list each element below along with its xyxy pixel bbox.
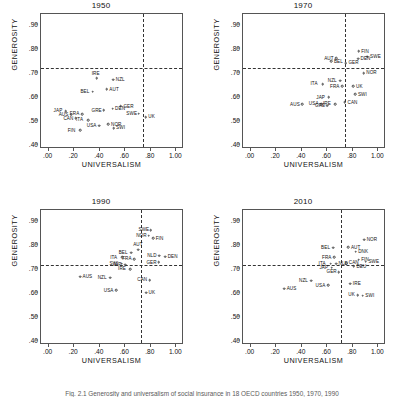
- x-tick-label: .80: [347, 152, 356, 159]
- plot-area: NZLIREAUTBELGERDENGRESWEUKJAPAUSFRACANIT…: [40, 13, 183, 148]
- data-point-label: ITA: [76, 117, 83, 122]
- data-point-label: AUT: [133, 242, 143, 247]
- x-tick-mark: [48, 148, 49, 151]
- data-point: [148, 279, 151, 282]
- data-point-label: IRE: [92, 71, 100, 76]
- data-point-label: FIN: [156, 236, 164, 241]
- x-tick-label: .40: [94, 152, 103, 159]
- data-point: [147, 234, 150, 237]
- x-axis-label: UNIVERSALISM: [242, 356, 385, 365]
- data-point: [353, 265, 356, 268]
- data-point: [137, 248, 140, 251]
- data-point-label: GER: [326, 269, 336, 274]
- data-point-label: UK: [148, 114, 155, 119]
- x-tick-mark: [150, 344, 151, 347]
- data-point: [109, 276, 112, 279]
- data-point: [362, 72, 365, 75]
- plot-area: SWEFINDENNORAUTBELGERNZLITAFRAUKSWIJAPAU…: [242, 13, 385, 148]
- data-point: [354, 93, 357, 96]
- y-tick-mark: [237, 292, 240, 293]
- x-tick-label: .00: [43, 348, 52, 355]
- data-point-label: SWE: [139, 227, 150, 232]
- data-point: [103, 109, 106, 112]
- panel-title: 1950: [0, 1, 202, 10]
- data-point-label: GER: [146, 260, 156, 265]
- data-point: [95, 77, 98, 80]
- data-point-label: ITA: [310, 81, 317, 86]
- data-point: [87, 119, 90, 122]
- y-tick-mark: [237, 268, 240, 269]
- panel-1950: 1950 GENEROSITY .40.50.60.70.80.90 NZLIR…: [0, 0, 202, 196]
- data-point: [327, 284, 330, 287]
- data-point-label: GRE: [92, 108, 102, 113]
- data-point-label: DEN: [115, 106, 125, 111]
- x-tick-label: .00: [43, 152, 52, 159]
- data-point: [157, 261, 160, 264]
- y-tick-mark: [35, 316, 38, 317]
- y-tick-mark: [35, 219, 38, 220]
- panel-title: 1990: [0, 197, 202, 206]
- x-tick-mark: [175, 344, 176, 347]
- data-point: [352, 85, 355, 88]
- y-tick-mark: [237, 72, 240, 73]
- y-tick-mark: [237, 96, 240, 97]
- data-point: [144, 116, 147, 119]
- data-point-label: DEN: [361, 56, 371, 61]
- data-point: [107, 123, 110, 126]
- x-tick-label: .40: [296, 152, 305, 159]
- y-axis-ticks: .40.50.60.70.80.90: [14, 13, 38, 148]
- data-point: [354, 250, 357, 253]
- data-point-label: AUS: [287, 286, 297, 291]
- x-tick-label: 1.00: [371, 348, 384, 355]
- y-axis-ticks: .40.50.60.70.80.90: [216, 209, 240, 344]
- data-point-label: IRE: [353, 281, 361, 286]
- y-tick-mark: [237, 243, 240, 244]
- data-point: [145, 291, 148, 294]
- data-point: [341, 85, 344, 88]
- data-point: [322, 83, 325, 86]
- data-point-label: SWE: [370, 54, 381, 59]
- panel-2010: 2010 GENEROSITY .40.50.60.70.80.90 NORAU…: [202, 196, 404, 392]
- panel-1990: 1990 GENEROSITY .40.50.60.70.80.90 SWENO…: [0, 196, 202, 392]
- x-tick-label: .20: [271, 152, 280, 159]
- reference-line-vertical: [341, 210, 342, 343]
- y-tick-mark: [237, 120, 240, 121]
- data-point-label: NZL: [98, 275, 107, 280]
- data-point: [327, 96, 330, 99]
- x-tick-mark: [301, 148, 302, 151]
- y-tick-mark: [35, 96, 38, 97]
- data-point-label: NLD: [339, 261, 349, 266]
- data-point-label: BEL: [119, 250, 128, 255]
- x-tick-label: .80: [347, 348, 356, 355]
- y-tick-mark: [237, 47, 240, 48]
- data-point-label: UK: [348, 292, 355, 297]
- data-point: [349, 282, 352, 285]
- x-tick-label: .60: [120, 348, 129, 355]
- figure-caption: Fig. 2.1 Generosity and universalism of …: [0, 390, 404, 397]
- data-point: [158, 255, 161, 258]
- data-point: [283, 288, 286, 291]
- x-tick-label: .40: [94, 348, 103, 355]
- x-tick-mark: [352, 148, 353, 151]
- data-point-label: FIN: [361, 49, 369, 54]
- data-point-label: SWI: [116, 125, 125, 130]
- data-point-label: DEN: [168, 254, 178, 259]
- y-axis-ticks: .40.50.60.70.80.90: [14, 209, 38, 344]
- y-tick-mark: [35, 340, 38, 341]
- data-point-label: AUS: [83, 274, 93, 279]
- x-tick-label: .00: [245, 152, 254, 159]
- x-tick-label: 1.00: [169, 152, 182, 159]
- y-tick-mark: [35, 268, 38, 269]
- data-point: [335, 262, 338, 265]
- data-point: [112, 79, 115, 82]
- data-point: [332, 247, 335, 250]
- data-point-label: SWI: [358, 92, 367, 97]
- data-point-label: NOR: [136, 233, 147, 238]
- data-point: [344, 62, 347, 65]
- data-point-label: BEL: [334, 59, 343, 64]
- panel-title: 2010: [202, 197, 404, 206]
- plot-area: SWENORFINAUTBELNLDDENITAFRAGERSWIJAPIREN…: [40, 209, 183, 344]
- y-tick-mark: [35, 47, 38, 48]
- x-axis-label: UNIVERSALISM: [40, 160, 183, 169]
- data-point: [330, 60, 333, 63]
